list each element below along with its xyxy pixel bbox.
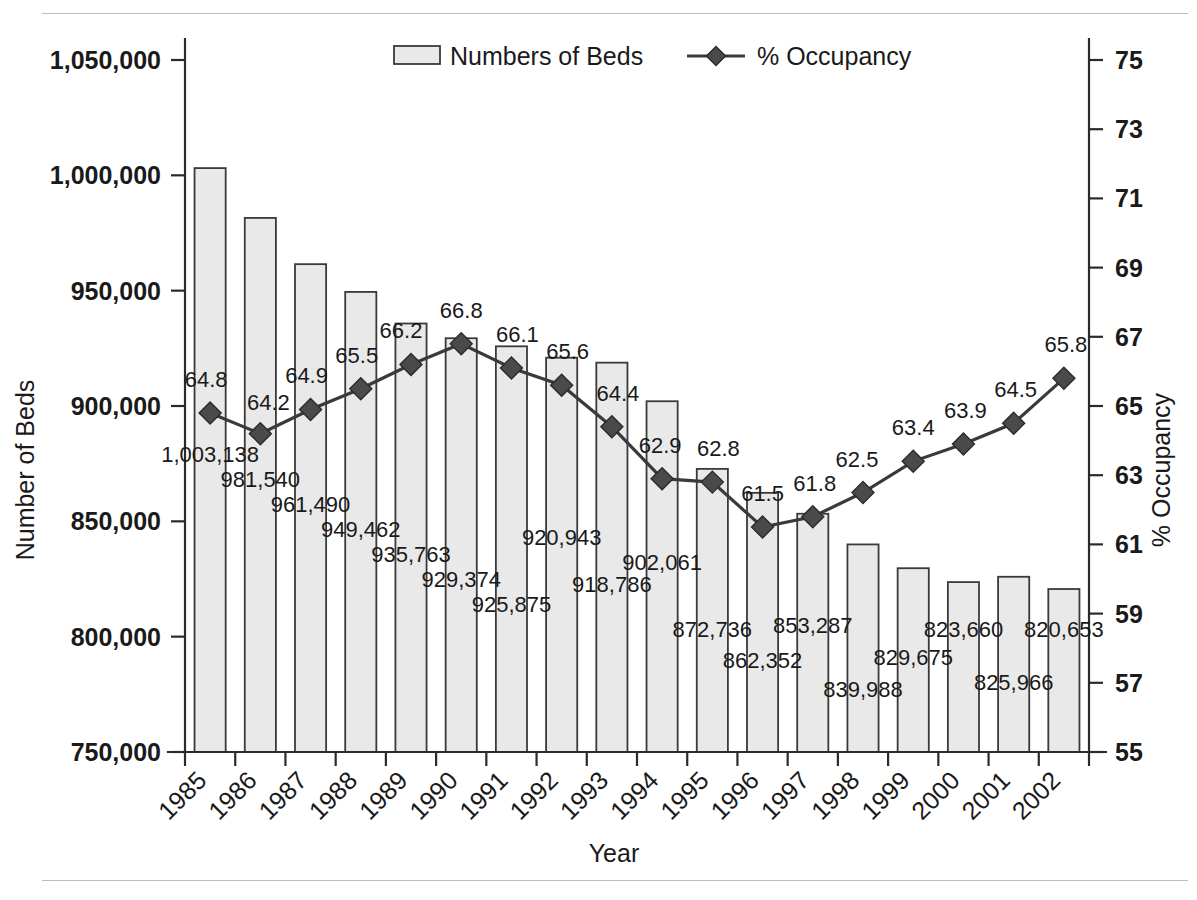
right-axis: 7573716967656361595755 bbox=[1089, 38, 1143, 766]
x-tick-label: 1993 bbox=[554, 766, 613, 825]
x-tick-label: 1992 bbox=[504, 766, 563, 825]
y2-tick-label: 61 bbox=[1115, 530, 1143, 558]
bar-value-label: 929,374 bbox=[421, 567, 501, 592]
line-value-label: 63.9 bbox=[944, 398, 987, 423]
legend-swatch-beds-icon bbox=[394, 46, 440, 64]
line-value-label: 64.5 bbox=[994, 377, 1037, 402]
line-value-label: 62.5 bbox=[836, 447, 879, 472]
x-tick-label: 1999 bbox=[856, 766, 915, 825]
line-value-label: 64.8 bbox=[185, 367, 228, 392]
bar-value-label: 829,675 bbox=[873, 645, 953, 670]
x-tick-label: 1988 bbox=[303, 766, 362, 825]
bar-value-label: 918,786 bbox=[572, 572, 652, 597]
left-axis: 1,050,0001,000,000950,000900,000850,0008… bbox=[50, 38, 185, 766]
y-tick-label: 850,000 bbox=[71, 507, 161, 535]
occupancy-marker bbox=[852, 482, 874, 504]
y2-tick-label: 65 bbox=[1115, 392, 1143, 420]
y2-tick-label: 67 bbox=[1115, 323, 1143, 351]
bar-value-label: 949,462 bbox=[321, 517, 401, 542]
x-tick-label: 2001 bbox=[956, 766, 1015, 825]
top-divider-rule bbox=[42, 13, 1188, 14]
legend-diamond-marker-icon bbox=[707, 47, 726, 66]
bar bbox=[546, 358, 577, 752]
bar-value-label: 961,490 bbox=[271, 492, 351, 517]
bar-value-label: 935,763 bbox=[371, 542, 451, 567]
x-axis: 1985198619871988198919901991199219931994… bbox=[153, 752, 1107, 825]
bar-value-label: 823,660 bbox=[924, 617, 1004, 642]
bar-value-label: 862,352 bbox=[723, 648, 803, 673]
legend-label-beds: Numbers of Beds bbox=[450, 42, 643, 70]
x-tick-label: 1998 bbox=[805, 766, 864, 825]
bar-value-label: 925,875 bbox=[472, 592, 552, 617]
x-tick-label: 1994 bbox=[605, 766, 664, 825]
y-tick-label: 750,000 bbox=[71, 738, 161, 766]
x-tick-label: 1987 bbox=[253, 766, 312, 825]
bar-value-label: 872,736 bbox=[673, 617, 753, 642]
line-value-label: 62.8 bbox=[697, 436, 740, 461]
bar-value-label: 839,988 bbox=[823, 677, 903, 702]
y-tick-label: 800,000 bbox=[71, 623, 161, 651]
y-tick-label: 950,000 bbox=[71, 277, 161, 305]
bottom-divider-rule bbox=[42, 880, 1188, 881]
line-value-label: 65.6 bbox=[546, 339, 589, 364]
line-value-label: 65.8 bbox=[1044, 332, 1087, 357]
x-tick-label: 2000 bbox=[906, 766, 965, 825]
y-tick-label: 1,000,000 bbox=[50, 161, 161, 189]
line-value-label: 61.8 bbox=[793, 471, 836, 496]
line-value-label: 62.9 bbox=[639, 433, 682, 458]
line-value-label: 63.4 bbox=[892, 415, 935, 440]
chart-legend: Numbers of Beds % Occupancy bbox=[394, 42, 912, 70]
y-tick-label: 1,050,000 bbox=[50, 46, 161, 74]
x-tick-label: 1990 bbox=[404, 766, 463, 825]
y2-tick-label: 57 bbox=[1115, 669, 1143, 697]
line-value-label: 64.2 bbox=[247, 390, 290, 415]
y2-axis-title: % Occupancy bbox=[1147, 392, 1175, 547]
y2-tick-label: 69 bbox=[1115, 254, 1143, 282]
bar-value-label: 825,966 bbox=[974, 670, 1054, 695]
x-tick-label: 1991 bbox=[454, 766, 513, 825]
bar-value-label: 920,943 bbox=[522, 525, 602, 550]
line-value-label: 64.4 bbox=[596, 381, 639, 406]
line-value-label: 61.5 bbox=[741, 481, 784, 506]
y2-tick-label: 59 bbox=[1115, 600, 1143, 628]
line-value-label: 64.9 bbox=[285, 363, 328, 388]
x-tick-label: 1985 bbox=[153, 766, 212, 825]
y-tick-label: 900,000 bbox=[71, 392, 161, 420]
y2-tick-label: 55 bbox=[1115, 738, 1143, 766]
combo-chart-canvas: Numbers of Beds % Occupancy Number of Be… bbox=[0, 0, 1197, 900]
y2-tick-label: 63 bbox=[1115, 461, 1143, 489]
bar-value-label: 853,287 bbox=[773, 613, 853, 638]
line-value-label: 66.8 bbox=[440, 298, 483, 323]
bar-value-label: 902,061 bbox=[622, 550, 702, 575]
x-tick-label: 1986 bbox=[203, 766, 262, 825]
y2-tick-label: 71 bbox=[1115, 184, 1143, 212]
bar-value-label: 820,653 bbox=[1024, 617, 1104, 642]
occupancy-marker bbox=[902, 450, 924, 472]
x-tick-label: 1997 bbox=[755, 766, 814, 825]
bar-value-label: 981,540 bbox=[221, 467, 301, 492]
legend-label-occupancy: % Occupancy bbox=[757, 42, 912, 70]
bar bbox=[697, 469, 728, 752]
y2-tick-label: 73 bbox=[1115, 115, 1143, 143]
x-tick-label: 1995 bbox=[655, 766, 714, 825]
y-axis-title: Number of Beds bbox=[11, 380, 39, 561]
y2-tick-label: 75 bbox=[1115, 46, 1143, 74]
x-tick-label: 1996 bbox=[705, 766, 764, 825]
occupancy-marker bbox=[952, 433, 974, 455]
x-tick-label: 1989 bbox=[353, 766, 412, 825]
chart-figure: Numbers of Beds % Occupancy Number of Be… bbox=[0, 0, 1197, 900]
bar-value-label: 1,003,138 bbox=[161, 442, 259, 467]
line-value-label: 66.2 bbox=[380, 318, 423, 343]
bar bbox=[998, 577, 1029, 752]
x-axis-title: Year bbox=[589, 839, 640, 867]
line-value-label: 65.5 bbox=[335, 343, 378, 368]
line-value-label: 66.1 bbox=[496, 322, 539, 347]
x-tick-label: 2002 bbox=[1006, 766, 1065, 825]
